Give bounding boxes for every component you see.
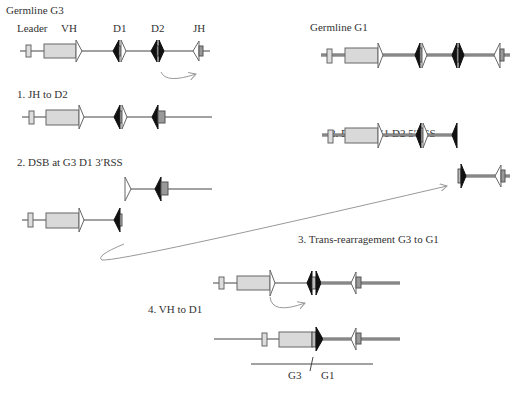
- d1-5rss-icon: [113, 40, 119, 62]
- g1-label: G1: [321, 369, 334, 381]
- leader-segment: [26, 45, 31, 57]
- d1-5rss-icon: [415, 43, 420, 68]
- jh-rss-icon: [494, 43, 500, 68]
- jh-to-d2-arrow-icon: [161, 72, 196, 79]
- step3-trans-rearrangement: 3. Trans-rearragement G3 to G1: [101, 186, 447, 260]
- step1-label: 1. JH to D2: [17, 88, 68, 100]
- jh-label: JH: [193, 22, 205, 34]
- step2-g3-label: 2. DSB at G3 D1 3′RSS: [17, 156, 123, 168]
- d2-3rss-icon: [159, 40, 164, 62]
- vh-rss-icon: [378, 43, 383, 68]
- germline-g1: Germline G1: [310, 21, 510, 68]
- d2-5rss-icon: [452, 43, 457, 68]
- step4-label: 4. VH to D1: [148, 303, 202, 315]
- germline-g3: Germline G3 Leader VH D1 D2 JH: [6, 4, 210, 79]
- vh-rss-icon: [76, 40, 82, 62]
- d2-label: D2: [151, 22, 164, 34]
- d1-label: D1: [113, 22, 126, 34]
- germline-g3-title: Germline G3: [6, 4, 64, 16]
- d2-5rss-icon: [151, 40, 157, 62]
- step2-dsb-g1: 2. DSB at G1 D2 5′RSS: [322, 123, 510, 188]
- step1-jh-to-d2: 1. JH to D2: [17, 88, 212, 129]
- jh-segment: [199, 46, 203, 56]
- vh-segment: [345, 48, 378, 63]
- diagram-canvas: Germline G3 Leader VH D1 D2 JH Germline …: [0, 0, 521, 394]
- d1-3rss-icon: [422, 43, 427, 68]
- step4-vh-to-d1: 4. VH to D1 G3 G1: [148, 270, 400, 381]
- leader-segment: [327, 49, 332, 63]
- jh-rss-icon: [193, 41, 199, 61]
- step2-dsb-g3: 2. DSB at G3 D1 3′RSS: [17, 156, 212, 232]
- germline-g1-title: Germline G1: [310, 21, 368, 33]
- d2-3rss-icon: [459, 43, 464, 68]
- jh-segment: [500, 49, 504, 61]
- trans-rearrangement-arrow-icon: [101, 186, 447, 260]
- vh-segment: [44, 44, 76, 58]
- vh-label: VH: [61, 22, 77, 34]
- vh-to-d1-arrow-icon: [270, 297, 305, 308]
- step3-label: 3. Trans-rearragement G3 to G1: [298, 233, 439, 245]
- leader-label: Leader: [17, 22, 48, 34]
- g3-label: G3: [288, 369, 302, 381]
- d1-3rss-icon: [121, 40, 126, 62]
